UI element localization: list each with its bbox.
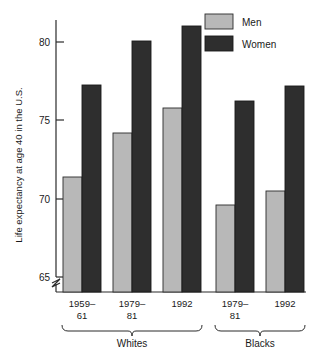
x-label-whites-1992: 1992 [171,298,192,309]
legend-swatch-women [205,36,233,51]
group-label-whites: Whites [117,338,148,349]
bar-women-blacks-1979-81 [235,101,254,292]
legend: Men Women [205,14,276,51]
y-tick-label-70: 70 [39,194,51,205]
bar-men-whites-1959-61 [63,177,82,292]
bar-men-whites-1992 [163,108,182,292]
y-tick-label-65: 65 [39,272,51,283]
x-label-blacks-1979-81-line1: 1979– [222,298,249,309]
bar-women-whites-1992 [182,26,201,292]
x-label-whites-1979-81-line1: 1979– [119,298,146,309]
x-label-whites-1959-61-line1: 1959– [69,298,96,309]
group-label-blacks: Blacks [245,338,274,349]
y-axis-title: Life expectancy at age 40 in the U.S. [13,87,24,242]
bar-men-blacks-1979-81 [216,205,235,292]
bar-women-blacks-1992 [285,86,304,292]
bar-women-whites-1979-81 [132,41,151,292]
life-expectancy-bar-chart: Life expectancy at age 40 in the U.S. 80… [0,0,318,354]
brace-whites [62,325,202,336]
y-tick-label-80: 80 [39,37,51,48]
bar-women-whites-1959-61 [82,85,101,292]
bar-men-blacks-1992 [266,191,285,292]
x-label-blacks-1992: 1992 [274,298,295,309]
x-label-blacks-1979-81-line2: 81 [230,310,241,321]
chart-svg: Life expectancy at age 40 in the U.S. 80… [0,0,318,354]
y-tick-label-75: 75 [39,115,51,126]
x-label-whites-1959-61-line2: 61 [77,310,88,321]
legend-label-men: Men [242,17,261,28]
x-label-whites-1979-81-line2: 81 [127,310,138,321]
brace-blacks [215,325,305,336]
legend-label-women: Women [242,39,276,50]
legend-swatch-men [205,14,233,29]
bar-men-whites-1979-81 [113,133,132,292]
